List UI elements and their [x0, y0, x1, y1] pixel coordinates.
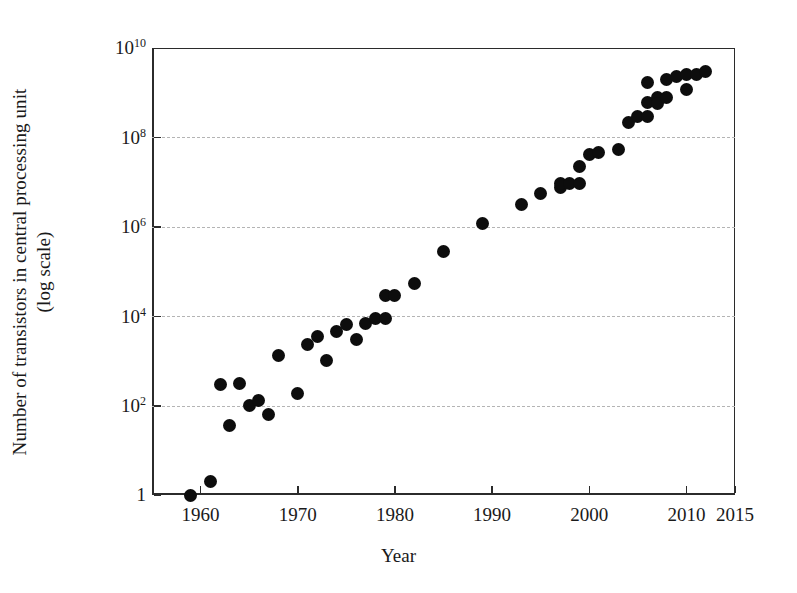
- y-tick-mark: [154, 137, 161, 139]
- x-tick-mark: [734, 486, 736, 493]
- data-point: [388, 289, 401, 302]
- data-point: [184, 489, 197, 502]
- data-point: [233, 377, 246, 390]
- data-point: [379, 312, 392, 325]
- data-point: [612, 143, 625, 156]
- x-tick-label-2015: 2015: [716, 505, 754, 524]
- y-axis-line: [152, 48, 154, 495]
- x-axis-title: Year: [0, 545, 797, 567]
- x-tick-mark: [589, 486, 591, 493]
- x-tick-label-2000: 2000: [570, 505, 608, 524]
- x-tick-label-1980: 1980: [376, 505, 414, 524]
- y-axis-title-line2: (log scale): [32, 88, 56, 455]
- x-tick-mark: [200, 486, 202, 493]
- data-point: [476, 217, 489, 230]
- gridline: [152, 137, 735, 138]
- plot-area: [152, 48, 735, 495]
- data-point: [272, 349, 285, 362]
- y-tick-label-1: 1: [137, 485, 147, 504]
- data-point: [320, 354, 333, 367]
- data-point: [350, 333, 363, 346]
- y-tick-mark: [154, 495, 161, 497]
- data-point: [660, 91, 673, 104]
- data-point: [592, 146, 605, 159]
- x-tick-mark: [491, 486, 493, 493]
- x-tick-label-1960: 1960: [182, 505, 220, 524]
- gridline: [152, 316, 735, 317]
- data-point: [214, 378, 227, 391]
- data-point: [262, 408, 275, 421]
- data-point: [223, 419, 236, 432]
- chart-figure: Number of transistors in central process…: [0, 0, 797, 593]
- data-point: [291, 387, 304, 400]
- y-tick-mark: [154, 316, 161, 318]
- data-point: [408, 277, 421, 290]
- data-point: [641, 110, 654, 123]
- x-tick-label-1970: 1970: [279, 505, 317, 524]
- data-point: [680, 83, 693, 96]
- y-tick-label-1e10: 1010: [115, 38, 146, 57]
- x-axis-line: [152, 493, 735, 495]
- data-point: [699, 65, 712, 78]
- x-tick-mark: [297, 486, 299, 493]
- y-tick-mark: [154, 405, 161, 407]
- y-tick-label-1e6: 106: [121, 217, 146, 236]
- plot-top-border: [152, 48, 735, 49]
- x-axis-tick-labels: 1960197019801990200020102015: [0, 505, 797, 533]
- data-point: [515, 198, 528, 211]
- y-axis-title-line1: Number of transistors in central process…: [9, 88, 30, 455]
- data-point: [340, 318, 353, 331]
- y-tick-label-1e2: 102: [121, 396, 146, 415]
- x-tick-label-2010: 2010: [667, 505, 705, 524]
- x-tick-mark: [394, 486, 396, 493]
- gridline: [152, 227, 735, 228]
- x-tick-mark: [686, 486, 688, 493]
- y-tick-label-1e4: 104: [121, 307, 146, 326]
- data-point: [204, 475, 217, 488]
- data-point: [311, 330, 324, 343]
- y-tick-mark: [154, 48, 161, 50]
- y-tick-label-1e8: 108: [121, 128, 146, 147]
- data-point: [573, 160, 586, 173]
- y-axis-title: Number of transistors in central process…: [12, 48, 52, 495]
- plot-right-border: [734, 48, 735, 495]
- data-point: [437, 245, 450, 258]
- data-point: [534, 187, 547, 200]
- data-point: [573, 177, 586, 190]
- x-tick-label-1990: 1990: [473, 505, 511, 524]
- y-tick-mark: [154, 226, 161, 228]
- gridline: [152, 406, 735, 407]
- data-point: [641, 76, 654, 89]
